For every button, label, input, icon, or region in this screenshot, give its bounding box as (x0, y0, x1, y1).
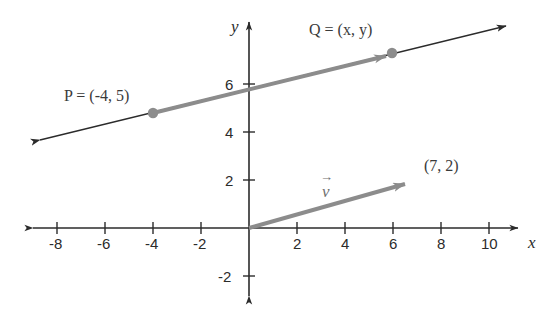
vector-v-label-group: → v (318, 170, 331, 200)
x-axis (33, 222, 518, 234)
x-tick-label-neg6: -6 (97, 236, 110, 251)
coordinate-plane-figure: -8 -6 -4 -2 2 4 6 8 10 6 4 2 -2 x y P = … (0, 0, 553, 314)
point-p-label: P = (-4, 5) (64, 88, 129, 104)
y-tick-label-6: 6 (225, 77, 233, 92)
x-tick-label-10: 10 (481, 236, 498, 251)
x-tick-label-6: 6 (389, 236, 397, 251)
y-tick-label-neg2: -2 (218, 269, 231, 284)
point-q-dot (387, 48, 397, 58)
x-tick-label-8: 8 (437, 236, 445, 251)
vector-v-tip-label: (7, 2) (424, 158, 459, 174)
x-tick-label-2: 2 (293, 236, 301, 251)
y-axis (243, 22, 255, 296)
x-tick-label-neg4: -4 (145, 236, 158, 251)
y-tick-label-4: 4 (225, 125, 233, 140)
y-axis-label: y (231, 18, 239, 35)
point-q-label: Q = (x, y) (309, 22, 372, 38)
x-tick-label-neg8: -8 (49, 236, 62, 251)
x-axis-label: x (528, 234, 536, 251)
point-p-dot (148, 108, 158, 118)
y-tick-label-2: 2 (225, 173, 233, 188)
vector-v-label: v (322, 183, 335, 200)
figure-svg (0, 0, 553, 314)
x-tick-label-neg2: -2 (193, 236, 206, 251)
vector-pq (153, 56, 386, 113)
x-tick-label-4: 4 (341, 236, 349, 251)
